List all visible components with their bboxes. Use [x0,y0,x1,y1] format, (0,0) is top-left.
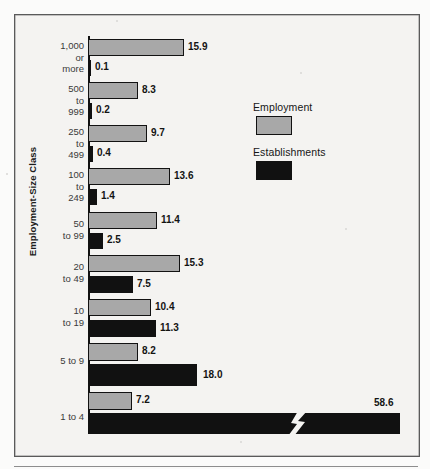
bar-value-label: 7.5 [137,278,151,289]
bar-value-label: 9.7 [151,127,165,138]
legend-label-employment: Employment [253,101,383,113]
scan-speckle [240,441,242,443]
bar-establishments[interactable] [88,103,92,119]
bar-establishments[interactable] [88,320,156,337]
bar-value-label: 8.3 [142,84,156,95]
bar-value-label: 15.3 [184,257,203,268]
category-label: 20 to 49 [36,261,84,284]
bar-employment[interactable] [88,392,132,410]
bar-establishments[interactable] [88,60,91,76]
bar-value-label: 15.9 [188,41,207,52]
legend-swatch-establishments [256,161,292,180]
bar-value-label: 13.6 [174,170,193,181]
scan-speckle [116,20,118,22]
category-label: 50 to 99 [36,218,84,241]
bar-establishments[interactable] [88,146,93,162]
bar-value-label: 58.6 [374,397,393,408]
bar-value-label: 0.1 [95,61,109,72]
legend-swatch-employment [256,116,292,135]
scan-speckle [6,173,8,175]
category-label: 100 to 249 [36,169,84,204]
scan-speckle [300,72,302,74]
chart-legend: Employment Establishments [253,101,383,191]
bar-value-label: 2.5 [107,234,121,245]
category-label: 10 to 19 [36,305,84,328]
scan-speckle [345,228,347,230]
bar-value-label: 1.4 [101,190,115,201]
bar-employment[interactable] [88,255,180,272]
bar-employment[interactable] [88,299,151,316]
bar-employment[interactable] [88,212,157,229]
chart-page: Employment-Size Class 1,000 or more 15.9… [0,0,430,469]
bar-employment[interactable] [88,39,184,56]
bar-value-label: 0.4 [97,147,111,158]
legend-label-establishments: Establishments [253,146,383,158]
bar-establishments[interactable] [88,233,103,249]
bar-employment[interactable] [88,343,138,361]
plot-area: Employment-Size Class 1,000 or more 15.9… [0,0,430,469]
bar-value-label: 10.4 [155,301,174,312]
bar-employment[interactable] [88,168,170,185]
bar-value-label: 11.3 [160,322,179,333]
category-label: 1 to 4 [36,411,84,423]
bar-establishments[interactable] [88,189,97,205]
category-label: 5 to 9 [36,355,84,367]
category-label: 250 to 499 [36,126,84,161]
bar-employment[interactable] [88,82,138,99]
bar-value-label: 0.2 [96,104,110,115]
bar-value-label: 11.4 [161,214,180,225]
category-label: 1,000 or more [36,40,84,75]
bar-establishments[interactable] [88,276,133,293]
bar-establishments[interactable] [88,364,197,386]
category-label: 500 to 999 [36,83,84,118]
bar-establishments[interactable] [88,413,400,434]
bar-value-label: 7.2 [136,394,150,405]
bar-employment[interactable] [88,125,147,142]
bar-value-label: 8.2 [142,345,156,356]
bar-value-label: 18.0 [203,369,222,380]
